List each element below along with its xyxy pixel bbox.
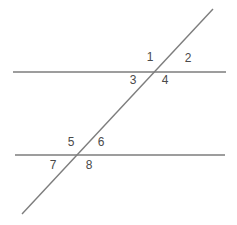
figure-canvas — [0, 0, 237, 225]
transversal-line — [22, 9, 213, 214]
angle-label-8: 8 — [86, 159, 93, 171]
angle-label-6: 6 — [98, 136, 105, 148]
angle-label-1: 1 — [147, 51, 154, 63]
angle-label-7: 7 — [50, 159, 57, 171]
angle-label-2: 2 — [185, 52, 192, 64]
angle-label-5: 5 — [68, 136, 75, 148]
angle-label-4: 4 — [162, 74, 169, 86]
geometry-figure: 1 2 3 4 5 6 7 8 — [0, 0, 237, 225]
angle-label-3: 3 — [130, 74, 137, 86]
